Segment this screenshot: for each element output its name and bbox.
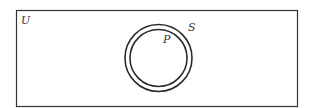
venn-diagram: U S P: [0, 0, 311, 108]
universe-label: U: [21, 14, 31, 27]
set-p-label: P: [162, 33, 171, 46]
set-s-label: S: [188, 21, 196, 34]
set-s-circle: [125, 25, 192, 92]
set-p-circle: [130, 30, 187, 87]
